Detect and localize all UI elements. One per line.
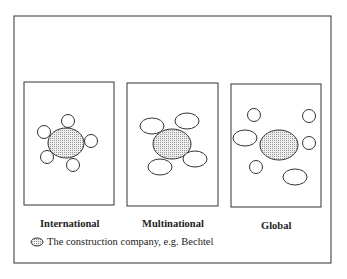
label-multinational: Multinational	[142, 218, 204, 229]
label-international: International	[40, 218, 100, 229]
legend: The construction company, e.g. Bechtel	[30, 236, 213, 247]
legend-text: The construction company, e.g. Bechtel	[47, 236, 213, 247]
company-legend-icon	[30, 237, 44, 247]
panel-global	[231, 84, 321, 207]
panel-multinational	[127, 83, 218, 206]
company-ellipse	[48, 128, 84, 158]
company-ellipse	[260, 130, 298, 160]
panel-international	[24, 82, 114, 205]
label-global: Global	[261, 220, 291, 231]
